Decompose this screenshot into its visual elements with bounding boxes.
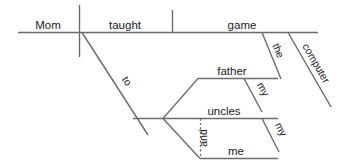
word-direct-object: game <box>228 19 257 31</box>
word-prep-object-me: me <box>228 145 244 157</box>
word-modifier-the: the <box>270 41 287 59</box>
word-verb: taught <box>109 19 142 31</box>
compound-branch-upper <box>163 79 198 119</box>
sentence-diagram: Mom taught game the computer to father m… <box>0 0 343 166</box>
word-conjunction-and: and <box>197 129 209 147</box>
word-preposition-to: to <box>120 74 135 88</box>
diagram-canvas: Mom taught game the computer to father m… <box>0 0 343 166</box>
word-prep-object-uncles: uncles <box>207 105 240 117</box>
preposition-slant-to <box>82 33 148 136</box>
word-modifier-my-uncles: my <box>273 120 290 139</box>
word-subject: Mom <box>35 19 61 31</box>
compound-branch-lower <box>163 119 200 159</box>
word-modifier-my-father: my <box>255 80 273 99</box>
word-prep-object-father: father <box>217 65 247 77</box>
